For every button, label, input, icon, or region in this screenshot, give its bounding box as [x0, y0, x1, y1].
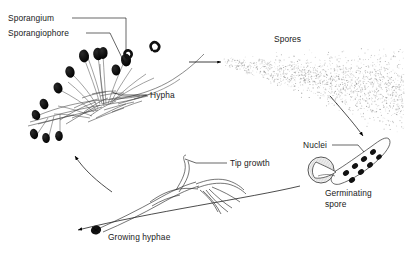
- label-germinating-spore-line1: Germinating: [325, 188, 372, 199]
- sporangiophores: [36, 55, 154, 140]
- growing-hyphae: [90, 155, 246, 236]
- leader-nuclei: [332, 145, 364, 152]
- sporangia-heads: [29, 47, 132, 144]
- leader-tip-growth: [185, 159, 227, 163]
- arrow-growing-hyphae-to-mycelium: [75, 156, 112, 192]
- arrow-germinating-to-growing-hyphae: [78, 186, 300, 230]
- diagram-canvas: Sporangium Sporangiophore Hypha Spores N…: [0, 0, 408, 258]
- spore-cloud: [224, 48, 405, 132]
- label-sporangiophore: Sporangiophore: [8, 28, 69, 38]
- label-tip-growth: Tip growth: [230, 158, 270, 168]
- diagram-artwork: [0, 0, 408, 258]
- label-sporangium: Sporangium: [8, 13, 54, 23]
- label-hypha: Hypha: [150, 90, 175, 100]
- label-spores: Spores: [274, 34, 301, 44]
- leader-sporangium: [72, 18, 126, 50]
- sporangiophore-cluster: [28, 42, 204, 143]
- label-nuclei: Nuclei: [303, 140, 327, 150]
- label-growing-hyphae: Growing hyphae: [108, 232, 170, 242]
- sporangia-discharged: [125, 42, 160, 58]
- label-germinating-spore-line2: spore: [325, 199, 346, 210]
